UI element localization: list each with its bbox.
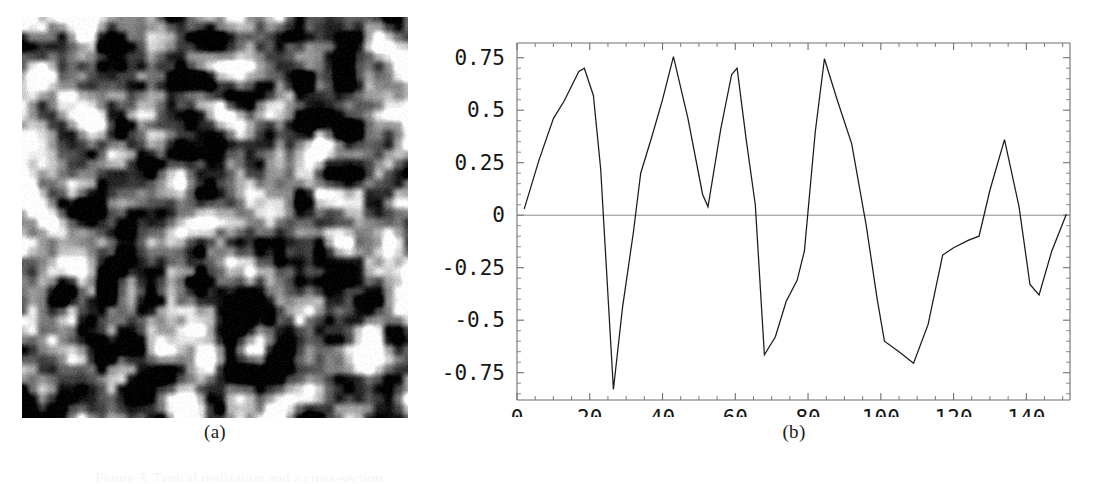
data-series-line [524, 57, 1066, 390]
y-axis-tick-labels: -0.75-0.5-0.2500.250.50.75 [442, 46, 505, 385]
svg-text:140: 140 [1007, 406, 1045, 417]
svg-text:120: 120 [935, 406, 973, 417]
svg-text:0.25: 0.25 [454, 151, 505, 175]
line-plot-svg: 020406080100120140 -0.75-0.5-0.2500.250.… [440, 12, 1090, 417]
panel-b-caption: (b) [517, 421, 1071, 443]
panel-b-line-plot: 020406080100120140 -0.75-0.5-0.2500.250.… [440, 12, 1090, 417]
panel-a-caption: (a) [22, 421, 408, 443]
svg-text:-0.25: -0.25 [442, 256, 505, 280]
axis-ticks [517, 43, 1070, 400]
grayscale-texture-canvas [22, 17, 408, 418]
svg-text:60: 60 [723, 406, 748, 417]
figure-root: (a) 020406080100120140 -0.75-0.5-0.2500.… [0, 0, 1096, 484]
plot-frame [517, 43, 1070, 400]
svg-text:0.5: 0.5 [467, 98, 505, 122]
svg-text:-0.5: -0.5 [454, 308, 505, 332]
bottom-caption-fragment: Figure 3. Typical realization and a cros… [95, 470, 525, 482]
svg-text:0.75: 0.75 [454, 46, 505, 70]
svg-text:80: 80 [795, 406, 820, 417]
svg-text:-0.75: -0.75 [442, 361, 505, 385]
x-axis-tick-labels: 020406080100120140 [511, 406, 1046, 417]
svg-text:100: 100 [862, 406, 900, 417]
panel-a-texture-image [22, 17, 408, 418]
svg-text:20: 20 [577, 406, 602, 417]
svg-text:0: 0 [511, 406, 524, 417]
svg-text:0: 0 [492, 203, 505, 227]
svg-text:40: 40 [650, 406, 675, 417]
